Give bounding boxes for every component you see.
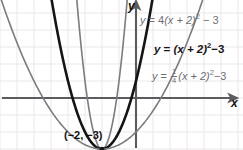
eq-b-body: (x + 2) [174,43,208,55]
eq-c-body: (x + 2) [178,70,209,82]
eq-c-constant: −3 [214,70,227,82]
equation-label-1a: y = (x + 2)2−3 [154,41,224,55]
x-axis-label: x [231,96,238,110]
vertex-coordinate-label: (−2, −3) [64,129,103,141]
vertex-point [100,147,105,150]
eq-b-constant: −3 [211,43,224,55]
equation-label-4a: y = 4(x + 2)2 − 3 [140,12,219,26]
parabola-branch [49,0,102,149]
eq-c-denominator: 4 [171,76,177,85]
parabola-branch [102,0,128,149]
parabola-graph-figure: y = 4(x + 2)2 − 3 y = (x + 2)2−3 y = 14(… [0,0,243,150]
y-axis-label: y [128,0,135,13]
equation-label-quarter-a: y = 14(x + 2)2−3 [152,68,226,84]
eq-a-constant: − 3 [203,14,219,26]
eq-a-body: (x + 2) [164,14,195,26]
eq-c-fraction: 14 [171,68,177,84]
eq-c-numerator: 1 [171,68,177,76]
parabola-branch [76,0,102,149]
